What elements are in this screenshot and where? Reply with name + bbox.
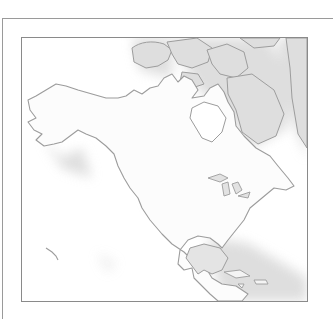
north-america-map [22,38,307,301]
map-frame [21,37,308,302]
hawaii-islands [46,248,58,260]
